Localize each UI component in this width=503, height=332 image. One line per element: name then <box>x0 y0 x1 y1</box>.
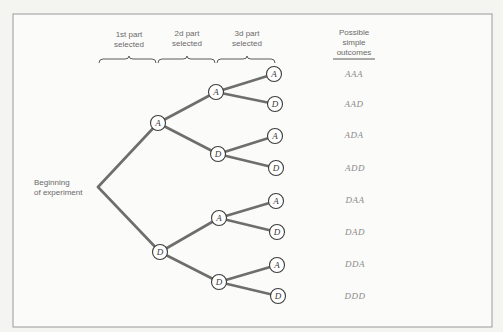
diagram-frame <box>13 14 492 327</box>
svg-text:selected: selected <box>172 39 202 48</box>
outcome-item: DAD <box>344 227 365 237</box>
svg-text:A: A <box>215 213 222 223</box>
outcome-item: ADA <box>344 130 364 140</box>
header-2d-part: 2d part selected <box>172 29 202 48</box>
svg-text:A: A <box>154 118 161 128</box>
svg-text:selected: selected <box>114 40 144 49</box>
svg-text:A: A <box>273 260 280 270</box>
svg-text:D: D <box>156 247 164 257</box>
outcome-item: DDD <box>344 291 366 301</box>
svg-text:selected: selected <box>232 39 262 48</box>
svg-text:D: D <box>273 227 281 237</box>
svg-text:of experiment: of experiment <box>34 188 83 197</box>
tree-diagram: 1st part selected 2d part selected 3d pa… <box>0 0 503 332</box>
node-l3-ada: A <box>268 129 283 144</box>
outcome-item: DDA <box>344 259 365 269</box>
node-l3-aad: D <box>268 97 283 112</box>
svg-text:A: A <box>271 131 278 141</box>
node-l3-add: D <box>269 161 284 176</box>
svg-text:Beginning: Beginning <box>34 178 70 187</box>
svg-text:A: A <box>270 69 277 79</box>
node-l1-a: A <box>151 116 166 131</box>
svg-text:A: A <box>212 87 219 97</box>
outcome-item: AAA <box>344 69 363 79</box>
svg-text:D: D <box>271 99 279 109</box>
svg-text:simple: simple <box>342 38 366 47</box>
outcome-item: DAA <box>345 195 365 205</box>
node-l2-ad: D <box>211 147 226 162</box>
svg-text:2d part: 2d part <box>175 29 201 38</box>
svg-text:outcomes: outcomes <box>337 48 372 57</box>
outcome-item: ADD <box>344 163 365 173</box>
header-1st-part: 1st part selected <box>114 30 144 49</box>
node-l3-ddd: D <box>271 289 286 304</box>
node-l2-aa: A <box>209 85 224 100</box>
node-l3-dda: A <box>270 258 285 273</box>
node-l3-aaa: A <box>267 67 282 82</box>
outcome-item: AAD <box>344 99 364 109</box>
node-l3-daa: A <box>269 194 284 209</box>
svg-text:D: D <box>214 149 222 159</box>
svg-text:A: A <box>272 196 279 206</box>
svg-text:D: D <box>274 291 282 301</box>
svg-text:D: D <box>272 163 280 173</box>
node-l2-dd: D <box>212 275 227 290</box>
svg-text:D: D <box>215 277 223 287</box>
header-3d-part: 3d part selected <box>232 29 262 48</box>
svg-text:3d part: 3d part <box>235 29 261 38</box>
svg-text:1st part: 1st part <box>116 30 143 39</box>
node-l1-d: D <box>153 245 168 260</box>
node-l2-da: A <box>212 211 227 226</box>
svg-text:Possible: Possible <box>339 28 370 37</box>
node-l3-dad: D <box>270 225 285 240</box>
